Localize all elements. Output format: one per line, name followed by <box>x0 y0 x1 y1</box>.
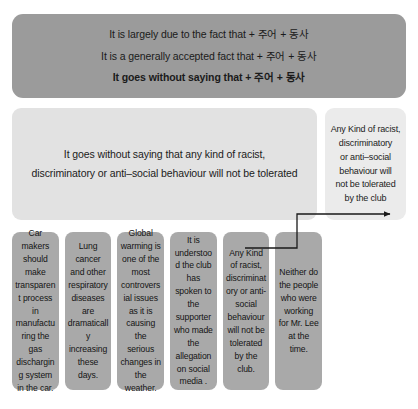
example-card-4-text: It is understood the club has spoken to … <box>173 234 214 389</box>
result-line-1: Any Kind of racist, <box>331 123 401 136</box>
pattern-card: It is largely due to the fact that + 주어 … <box>12 14 406 98</box>
example-card-6-text: Neither do the people who were working f… <box>278 266 319 356</box>
pattern-line-2: It is a generally accepted fact that + 주… <box>101 49 317 64</box>
example-card-6: Neither do the people who were working f… <box>275 232 322 390</box>
example-card-2-text: Lung cancer and other respiratory diseas… <box>68 240 109 382</box>
result-line-6: by the club <box>345 192 387 205</box>
example-sentence-line-2: discriminatory or anti–social behaviour … <box>32 166 298 181</box>
pattern-line-3: It goes without saying that + 주어 + 동사 <box>113 70 306 85</box>
result-line-3: or anti–social <box>340 151 391 164</box>
example-card-5-text: Any Kind of racist, discriminatory or an… <box>226 247 267 376</box>
example-card-4: It is understood the club has spoken to … <box>170 232 217 390</box>
result-card: Any Kind of racist, discriminatory or an… <box>325 108 406 220</box>
example-card-row: Car makers should make transparent proce… <box>12 232 322 390</box>
result-line-4: behaviour will <box>339 165 391 178</box>
example-card-3-text: Global warming is one of the most contro… <box>120 227 161 395</box>
example-card-3: Global warming is one of the most contro… <box>117 232 164 390</box>
example-sentence-card: It goes without saying that any kind of … <box>12 108 317 220</box>
example-card-5: Any Kind of racist, discriminatory or an… <box>223 232 270 390</box>
example-card-1: Car makers should make transparent proce… <box>12 232 59 390</box>
diagram-canvas: It is largely due to the fact that + 주어 … <box>0 0 418 409</box>
result-line-2: discriminatory <box>339 137 392 150</box>
result-line-5: not be tolerated <box>335 178 395 191</box>
pattern-line-1: It is largely due to the fact that + 주어 … <box>109 27 309 42</box>
example-card-1-text: Car makers should make transparent proce… <box>15 227 56 395</box>
example-card-2: Lung cancer and other respiratory diseas… <box>65 232 112 390</box>
example-sentence-line-1: It goes without saying that any kind of … <box>64 147 265 162</box>
